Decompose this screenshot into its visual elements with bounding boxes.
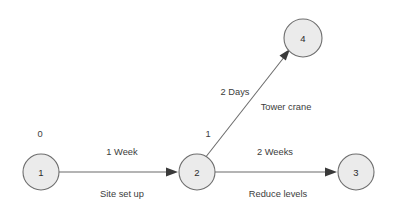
edge-2-3-arrowhead: [325, 168, 337, 177]
node-1-earliest-time: 0: [37, 129, 42, 139]
node-1-label: 1: [38, 167, 43, 178]
node-2-label: 2: [194, 167, 199, 178]
network-diagram-svg: 1 Week Site set up 2 Weeks Reduce levels…: [0, 0, 394, 210]
edge-1-2-arrowhead: [166, 168, 178, 177]
edge-1-2-activity-label: Site set up: [100, 189, 144, 199]
edge-2-4-activity-label: Tower crane: [261, 102, 312, 112]
network-diagram-canvas: 1 Week Site set up 2 Weeks Reduce levels…: [0, 0, 394, 210]
edge-2-3[interactable]: 2 Weeks Reduce levels: [215, 147, 337, 199]
node-4-label: 4: [300, 33, 305, 44]
node-4[interactable]: 4: [284, 19, 322, 57]
node-3-label: 3: [353, 167, 358, 178]
edge-2-3-activity-label: Reduce levels: [249, 189, 308, 199]
edge-2-4[interactable]: 2 Days Tower crane: [205, 49, 311, 158]
node-3[interactable]: 3: [338, 154, 374, 190]
node-2[interactable]: 2: [179, 154, 215, 190]
edge-1-2-duration-label: 1 Week: [106, 147, 138, 157]
node-1[interactable]: 1: [23, 154, 59, 190]
node-2-earliest-time: 1: [205, 129, 210, 139]
edge-2-3-duration-label: 2 Weeks: [257, 147, 293, 157]
edge-2-4-duration-label: 2 Days: [221, 87, 250, 97]
edge-1-2[interactable]: 1 Week Site set up: [59, 147, 178, 199]
